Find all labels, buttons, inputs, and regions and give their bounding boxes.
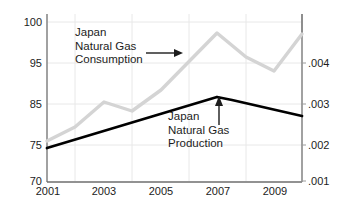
y-left-tick-85: 85 xyxy=(14,98,42,110)
consumption-annotation-arrow xyxy=(146,49,183,57)
y-right-tick-003: .003 xyxy=(308,98,329,110)
y-right-tick-001: .001 xyxy=(308,175,329,187)
y-left-tick-100: 100 xyxy=(14,16,42,28)
y-right-tick-004: .004 xyxy=(308,57,329,69)
annotation-consumption-line-3: Consumption xyxy=(75,53,143,67)
natural-gas-line-chart: 100 95 85 75 70 .004 .003 .002 .001 2001… xyxy=(0,0,337,202)
annotation-production-line-2: Natural Gas xyxy=(168,124,229,138)
annotation-production-line-3: Production xyxy=(168,137,229,151)
y-left-tick-75: 75 xyxy=(14,139,42,151)
y-left-tick-95: 95 xyxy=(14,57,42,69)
annotation-consumption-line-2: Natural Gas xyxy=(75,40,143,54)
annotation-production-line-1: Japan xyxy=(168,110,229,124)
x-tick-2001: 2001 xyxy=(22,185,74,197)
x-tick-2007: 2007 xyxy=(192,185,244,197)
annotation-consumption-line-1: Japan xyxy=(75,26,143,40)
x-tick-2003: 2003 xyxy=(78,185,130,197)
x-tick-2005: 2005 xyxy=(135,185,187,197)
annotation-production: Japan Natural Gas Production xyxy=(168,110,229,151)
y-right-tick-002: .002 xyxy=(308,139,329,151)
x-tick-2009: 2009 xyxy=(249,185,301,197)
chart-canvas xyxy=(0,0,337,202)
annotation-consumption: Japan Natural Gas Consumption xyxy=(75,26,143,67)
